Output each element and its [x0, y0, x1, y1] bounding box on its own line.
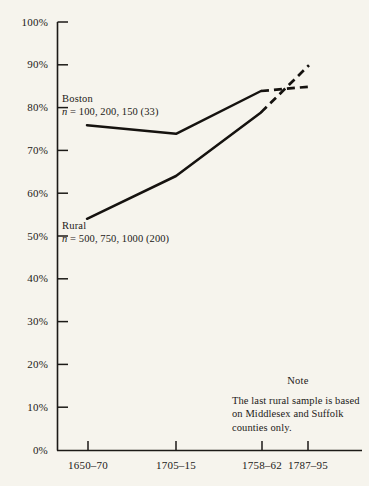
y-tick-label-60: 60%: [4, 188, 48, 199]
series-rural-dashed: [261, 65, 309, 112]
y-tick-label-90: 90%: [4, 59, 48, 70]
series-label-boston: Boston n = 100, 200, 150 (33): [62, 92, 159, 118]
series-label-rural-n: n = 500, 750, 1000 (200): [62, 232, 169, 245]
x-axis-ticks: [88, 441, 308, 451]
y-tick-label-20: 20%: [4, 359, 48, 370]
x-tick-label-1787-95: 1787–95: [268, 460, 348, 471]
y-tick-label-100: 100%: [4, 17, 48, 28]
note-body: The last rural sample is based on Middle…: [232, 394, 364, 435]
x-tick-label-1705-15: 1705–15: [136, 460, 216, 471]
series-label-boston-n: n = 100, 200, 150 (33): [62, 105, 159, 118]
series-label-boston-name: Boston: [62, 92, 159, 105]
y-axis-ticks: [58, 22, 69, 407]
y-tick-label-70: 70%: [4, 145, 48, 156]
note-block: Note The last rural sample is based on M…: [232, 374, 364, 434]
y-tick-label-80: 80%: [4, 102, 48, 113]
y-tick-label-30: 30%: [4, 316, 48, 327]
series-label-boston-n-value: = 100, 200, 150 (33): [67, 106, 158, 117]
y-tick-label-50: 50%: [4, 231, 48, 242]
x-tick-label-1650-70: 1650–70: [48, 460, 128, 471]
y-tick-label-0: 0%: [4, 445, 48, 456]
chart-page: · ·: [0, 0, 369, 486]
series-label-rural: Rural n = 500, 750, 1000 (200): [62, 219, 169, 245]
y-tick-label-10: 10%: [4, 402, 48, 413]
series-label-rural-name: Rural: [62, 219, 169, 232]
y-tick-label-40: 40%: [4, 273, 48, 284]
series-label-rural-n-value: = 500, 750, 1000 (200): [67, 233, 169, 244]
note-heading: Note: [232, 374, 364, 388]
